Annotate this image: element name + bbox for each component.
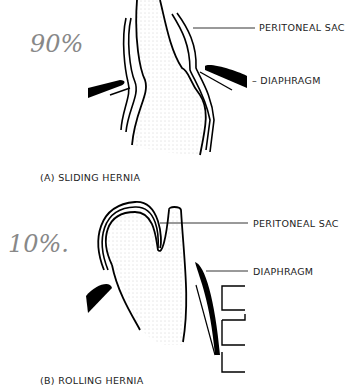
label-peritoneal-sac-a: PERITONEAL SAC [259, 22, 345, 33]
annotation-b: 10%. [8, 230, 69, 258]
caption-a: (A) SLIDING HERNIA [40, 172, 140, 183]
rolling-hernia-figure [86, 202, 248, 372]
label-diaphragm-a: – DIAPHRAGM [252, 75, 321, 86]
annotation-a: 90% [30, 30, 83, 58]
sliding-hernia-figure [88, 0, 255, 155]
caption-b: (B) ROLLING HERNIA [40, 375, 143, 386]
label-diaphragm-b: DIAPHRAGM [253, 266, 313, 277]
label-peritoneal-sac-b: PERITONEAL SAC [253, 218, 339, 229]
